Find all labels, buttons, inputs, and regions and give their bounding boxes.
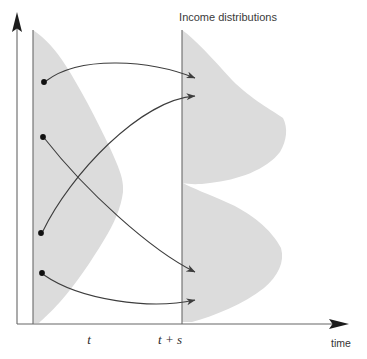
tick-label-t-plus-s: t + s [158, 332, 182, 347]
x-axis-label: time [331, 337, 351, 349]
income-dot-2 [40, 134, 46, 140]
figure-title: Income distributions [179, 11, 277, 23]
distribution-area-t-plus-s [182, 30, 286, 322]
income-distributions-figure: Income distributions t t + s time [0, 0, 367, 359]
income-dot-4 [39, 270, 45, 276]
y-axis [12, 12, 22, 324]
income-dot-1 [41, 79, 47, 85]
tick-label-t: t [87, 332, 91, 347]
distribution-shape-t-plus-s [182, 30, 286, 322]
income-dot-3 [38, 230, 44, 236]
figure-canvas: Income distributions t t + s time [0, 0, 367, 359]
